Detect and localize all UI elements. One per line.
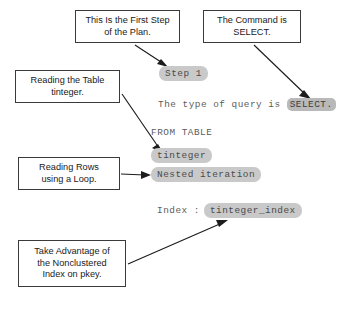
arrow-index-to-tinteger-index bbox=[128, 220, 228, 264]
callout-reading-table-line-1: Reading the Table bbox=[31, 75, 105, 87]
plan-index-label: Index : bbox=[157, 205, 204, 216]
arrow-command-to-select bbox=[254, 45, 311, 99]
plan-table-name: tinteger bbox=[151, 148, 212, 163]
plan-query-type-line: The type of query is SELECT. bbox=[158, 99, 336, 111]
callout-first-step: This Is the First Step of the Plan. bbox=[75, 10, 180, 43]
plan-query-type-prefix: The type of query is bbox=[158, 99, 287, 110]
arrow-rows-to-nested-iteration bbox=[121, 171, 151, 179]
callout-reading-rows-line-2: using a Loop. bbox=[41, 174, 96, 186]
arrow-table-to-tinteger bbox=[122, 94, 163, 153]
callout-reading-rows-line-1: Reading Rows bbox=[39, 162, 99, 174]
plan-iteration-line: Nested iteration bbox=[151, 169, 261, 181]
plan-step-line: Step 1 bbox=[159, 68, 208, 80]
callout-nonclustered-index: Take Advantage of the Nonclustered Index… bbox=[18, 240, 126, 287]
plan-from-clause-line: FROM TABLE bbox=[151, 127, 212, 139]
diagram-canvas: This Is the First Step of the Plan. The … bbox=[0, 0, 350, 310]
plan-iteration-label: Nested iteration bbox=[151, 167, 261, 182]
plan-query-type-value: SELECT. bbox=[287, 98, 336, 111]
plan-step-label: Step 1 bbox=[159, 66, 208, 81]
plan-index-line: Index :tinteger_index bbox=[157, 205, 302, 217]
callout-nonclustered-index-line-1: Take Advantage of bbox=[34, 246, 110, 258]
plan-table-line: tinteger bbox=[151, 150, 212, 162]
callout-first-step-line-1: This Is the First Step bbox=[85, 15, 169, 27]
callout-reading-table-line-2: tinteger. bbox=[51, 87, 84, 99]
plan-from-clause: FROM TABLE bbox=[151, 127, 212, 138]
callout-nonclustered-index-line-2: the Nonclustered bbox=[37, 258, 106, 270]
callout-command-line-1: The Command is bbox=[217, 15, 287, 27]
callout-reading-rows: Reading Rows using a Loop. bbox=[18, 157, 120, 190]
callout-command: The Command is SELECT. bbox=[203, 10, 301, 43]
callout-reading-table: Reading the Table tinteger. bbox=[15, 70, 120, 103]
callout-nonclustered-index-line-3: Index on pkey. bbox=[42, 269, 101, 281]
callout-command-line-2: SELECT. bbox=[233, 27, 270, 39]
plan-index-name: tinteger_index bbox=[204, 203, 302, 218]
arrow-first-step-to-step1 bbox=[135, 45, 168, 67]
callout-first-step-line-2: of the Plan. bbox=[104, 27, 150, 39]
